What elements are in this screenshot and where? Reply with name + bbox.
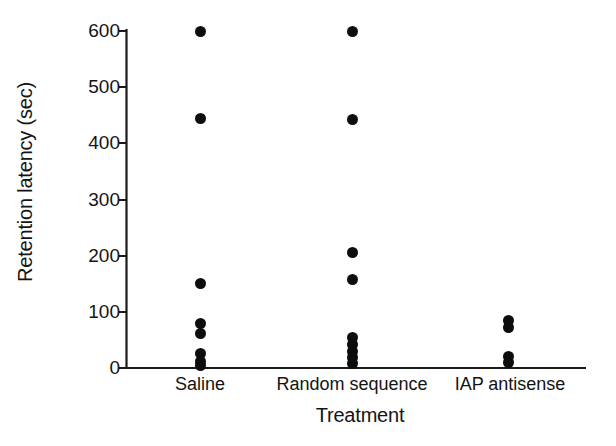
x-category-label-saline: Saline — [140, 374, 260, 394]
data-point — [195, 360, 206, 371]
data-point — [503, 357, 514, 368]
y-tick-label-0: 0 — [60, 358, 120, 377]
data-point — [347, 274, 358, 285]
data-point — [503, 322, 514, 333]
data-point — [195, 278, 206, 289]
y-tick-label-100: 100 — [60, 302, 120, 321]
data-point — [195, 318, 206, 329]
x-category-label-random-sequence: Random sequence — [262, 374, 442, 394]
data-point — [195, 113, 206, 124]
scatter-plot-figure: Retention latency (sec) 600 500 400 300 … — [0, 0, 616, 446]
data-point — [195, 328, 206, 339]
data-point — [347, 114, 358, 125]
data-point — [347, 358, 358, 369]
y-tick-label-500: 500 — [60, 77, 120, 96]
y-tick-label-300: 300 — [60, 190, 120, 209]
x-axis-title: Treatment — [130, 404, 590, 427]
y-tick-label-600: 600 — [60, 21, 120, 40]
y-tick-label-400: 400 — [60, 133, 120, 152]
data-point — [347, 247, 358, 258]
y-axis-title: Retention latency (sec) — [8, 12, 42, 352]
x-category-label-iap-antisense: IAP antisense — [430, 374, 590, 394]
y-tick-label-200: 200 — [60, 246, 120, 265]
data-point — [195, 26, 206, 37]
data-point — [347, 26, 358, 37]
